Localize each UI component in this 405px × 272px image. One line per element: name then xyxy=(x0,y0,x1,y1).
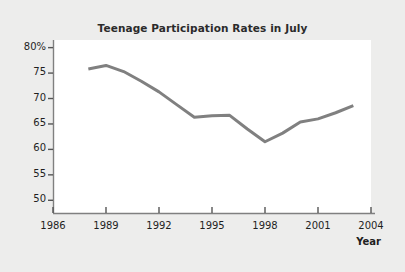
x-axis-title: Year xyxy=(356,236,381,247)
x-tick-label: 1998 xyxy=(240,220,290,231)
x-tick-marks xyxy=(53,207,371,213)
y-tick-label: 70 xyxy=(8,92,46,103)
chart-svg xyxy=(0,0,405,272)
y-tick-label: 55 xyxy=(8,168,46,179)
x-tick-label: 1992 xyxy=(134,220,184,231)
data-line-series-1 xyxy=(88,65,353,141)
x-tick-label: 1995 xyxy=(187,220,237,231)
x-tick-label: 2001 xyxy=(293,220,343,231)
y-tick-label: 80% xyxy=(8,41,46,52)
y-tick-label: 65 xyxy=(8,117,46,128)
y-tick-label: 75 xyxy=(8,66,46,77)
x-tick-label: 1986 xyxy=(28,220,78,231)
y-tick-label: 50 xyxy=(8,193,46,204)
chart-figure: Teenage Participation Rates in July 80%7… xyxy=(0,0,405,272)
y-tick-marks xyxy=(48,48,53,201)
x-tick-label: 1989 xyxy=(81,220,131,231)
x-tick-label: 2004 xyxy=(346,220,396,231)
y-tick-label: 60 xyxy=(8,142,46,153)
